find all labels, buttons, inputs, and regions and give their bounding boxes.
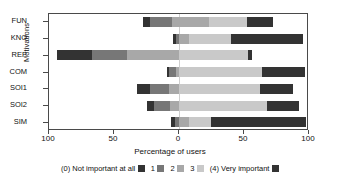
- y-tick: [43, 21, 48, 22]
- bar-row-kno: [49, 31, 307, 48]
- bar-row-fun: [49, 14, 307, 31]
- stacked-bar: [173, 34, 303, 44]
- y-tick: [43, 122, 48, 123]
- stacked-bar: [143, 17, 273, 27]
- y-tick-label-rep: REP: [0, 50, 27, 60]
- bar-segment: [169, 84, 179, 94]
- x-tick-label: 100: [31, 134, 65, 143]
- y-tick: [43, 88, 48, 89]
- x-tick-label: 0: [161, 134, 195, 143]
- y-tick-label-com: COM: [0, 67, 27, 77]
- bar-segment: [127, 50, 179, 60]
- y-tick-label-kno: KNO: [0, 33, 27, 43]
- y-tick: [43, 105, 48, 106]
- bar-segment: [179, 117, 189, 127]
- legend-item-4: (4) Very important: [210, 164, 279, 173]
- bar-segment: [248, 50, 252, 60]
- stacked-bar: [167, 67, 305, 77]
- bar-segment: [231, 34, 303, 44]
- bar-segment: [267, 101, 298, 111]
- y-tick-label-soi1: SOI1: [0, 83, 27, 93]
- stacked-bar: [137, 84, 293, 94]
- legend-item-1: 1: [151, 164, 165, 173]
- bar-row-sim: [49, 114, 307, 131]
- legend-label: 1: [151, 164, 155, 173]
- legend-item-0: (0) Not important at all: [61, 164, 145, 173]
- bar-segment: [154, 101, 170, 111]
- bar-segment: [57, 50, 92, 60]
- legend-label: (0) Not important at all: [61, 164, 135, 173]
- bar-segment: [260, 84, 294, 94]
- plot-area: [48, 13, 308, 130]
- stacked-bar: [147, 101, 299, 111]
- legend-swatch-icon: [272, 165, 279, 172]
- bar-segment: [209, 17, 247, 27]
- stacked-bar: [171, 117, 306, 127]
- bar-segment: [150, 17, 172, 27]
- y-tick: [43, 38, 48, 39]
- bar-segment: [179, 50, 248, 60]
- bar-segment: [137, 84, 150, 94]
- y-tick-label-fun: FUN: [0, 16, 27, 26]
- legend-item-3: 3: [190, 164, 204, 173]
- bar-segment: [262, 67, 305, 77]
- figure: Motivations FUNKNOREPCOMSOI1SOI2SIM 1005…: [0, 0, 340, 185]
- legend-label: (4) Very important: [210, 164, 270, 173]
- chart-legend: (0) Not important at all123(4) Very impo…: [0, 164, 340, 173]
- bar-segment: [92, 50, 127, 60]
- legend-swatch-icon: [138, 165, 145, 172]
- bar-segment: [189, 34, 231, 44]
- x-tick-label: 50: [226, 134, 260, 143]
- x-tick-label: 50: [96, 134, 130, 143]
- bar-segment: [189, 117, 211, 127]
- bar-row-soi2: [49, 98, 307, 115]
- legend-label: 3: [190, 164, 194, 173]
- legend-swatch-icon: [177, 165, 184, 172]
- y-axis-title: Motivations: [22, 0, 31, 91]
- bar-segment: [170, 101, 179, 111]
- legend-swatch-icon: [197, 165, 204, 172]
- bar-segment: [211, 117, 306, 127]
- bar-segment: [172, 17, 208, 27]
- bar-row-rep: [49, 47, 307, 64]
- y-tick-label-soi2: SOI2: [0, 100, 27, 110]
- bar-segment: [179, 34, 189, 44]
- y-tick-label-sim: SIM: [0, 117, 27, 127]
- legend-swatch-icon: [157, 165, 164, 172]
- stacked-bar: [57, 50, 252, 60]
- legend-item-2: 2: [170, 164, 184, 173]
- y-tick: [43, 72, 48, 73]
- bar-segment: [147, 101, 155, 111]
- x-axis-title: Percentage of users: [0, 147, 340, 156]
- bar-segment: [179, 101, 267, 111]
- y-tick: [43, 55, 48, 56]
- bar-row-soi1: [49, 81, 307, 98]
- bar-segment: [179, 84, 260, 94]
- legend-label: 2: [170, 164, 174, 173]
- bar-segment: [150, 84, 168, 94]
- bar-segment: [247, 17, 273, 27]
- x-tick-label: 100: [291, 134, 325, 143]
- bar-segment: [169, 67, 177, 77]
- bar-row-com: [49, 64, 307, 81]
- bar-segment: [179, 67, 262, 77]
- bar-segment: [143, 17, 151, 27]
